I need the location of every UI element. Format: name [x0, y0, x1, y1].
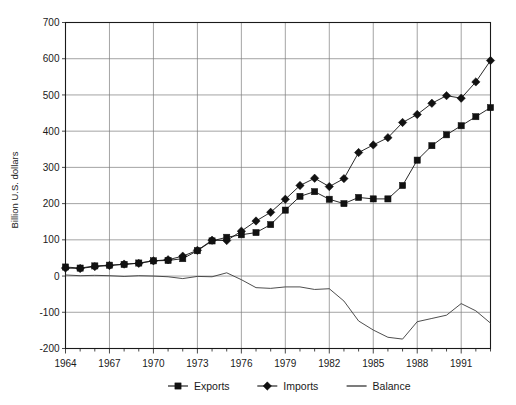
- y-axis-tick-labels: -200-1000100200300400500600700: [39, 17, 59, 354]
- y-tick-label: 0: [54, 271, 60, 282]
- marker-diamond: [413, 110, 421, 118]
- marker-square: [297, 193, 303, 199]
- y-tick-label: 500: [43, 90, 60, 101]
- x-tick-label: 1964: [54, 358, 77, 369]
- marker-square: [268, 222, 274, 228]
- marker-diamond: [340, 174, 348, 182]
- x-tick-label: 1970: [142, 358, 165, 369]
- y-tick-label: -200: [39, 343, 59, 354]
- marker-diamond: [354, 148, 362, 156]
- legend-label: Exports: [194, 380, 230, 392]
- series-line-imports: [66, 61, 491, 269]
- trade-chart-figure: -200-1000100200300400500600700 196419671…: [0, 0, 516, 405]
- legend-label: Imports: [283, 380, 318, 392]
- marker-square: [487, 105, 493, 111]
- legend-item-balance[interactable]: Balance: [347, 380, 411, 392]
- plot-frame: [66, 23, 491, 349]
- marker-square: [370, 196, 376, 202]
- legend-item-exports[interactable]: Exports: [168, 380, 230, 392]
- marker-diamond: [310, 174, 318, 182]
- marker-diamond: [428, 99, 436, 107]
- x-tick-label: 1982: [318, 358, 341, 369]
- chart-legend: ExportsImportsBalance: [168, 380, 411, 392]
- legend-item-imports[interactable]: Imports: [257, 380, 318, 392]
- series-line-exports: [66, 108, 491, 268]
- x-tick-label: 1985: [362, 358, 385, 369]
- y-axis-title-text: Billion U.S. dollars: [9, 151, 20, 228]
- series-line-balance: [66, 273, 491, 339]
- marker-square: [458, 123, 464, 129]
- marker-square: [312, 189, 318, 195]
- series-markers-exports: [62, 105, 493, 272]
- marker-diamond: [442, 91, 450, 99]
- legend-label: Balance: [373, 380, 411, 392]
- marker-diamond: [486, 56, 494, 64]
- series-markers-imports: [61, 56, 494, 272]
- marker-square: [341, 201, 347, 207]
- marker-square: [253, 229, 259, 235]
- marker-square: [429, 143, 435, 149]
- marker-square: [385, 196, 391, 202]
- x-tick-label: 1979: [274, 358, 297, 369]
- marker-diamond: [263, 382, 271, 390]
- plot-border: [66, 23, 491, 349]
- marker-square: [282, 207, 288, 213]
- marker-square: [175, 383, 181, 389]
- x-tick-label: 1988: [406, 358, 429, 369]
- marker-diamond: [369, 141, 377, 149]
- marker-square: [356, 194, 362, 200]
- tick-marks: [62, 23, 491, 354]
- y-tick-label: 100: [43, 234, 60, 245]
- x-axis-tick-labels: 1964196719701973197619791982198519881991: [54, 358, 472, 369]
- marker-square: [414, 157, 420, 163]
- marker-square: [326, 196, 332, 202]
- marker-square: [443, 132, 449, 138]
- marker-diamond: [252, 217, 260, 225]
- y-tick-label: 200: [43, 198, 60, 209]
- y-tick-label: -100: [39, 307, 59, 318]
- x-tick-label: 1973: [186, 358, 209, 369]
- marker-square: [399, 182, 405, 188]
- y-tick-label: 700: [43, 17, 60, 28]
- y-tick-label: 300: [43, 162, 60, 173]
- grid-lines: [66, 23, 491, 349]
- data-series: [61, 56, 494, 339]
- y-tick-label: 400: [43, 126, 60, 137]
- marker-square: [473, 114, 479, 120]
- y-axis-title: Billion U.S. dollars: [9, 151, 20, 228]
- y-tick-label: 600: [43, 53, 60, 64]
- marker-diamond: [325, 182, 333, 190]
- x-tick-label: 1976: [230, 358, 253, 369]
- x-tick-label: 1967: [98, 358, 121, 369]
- x-tick-label: 1991: [450, 358, 473, 369]
